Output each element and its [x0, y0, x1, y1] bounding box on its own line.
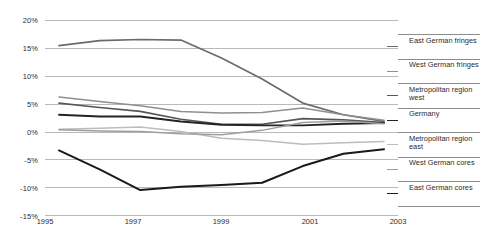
- legend-label: Metropolitan region west: [409, 86, 481, 103]
- legend-leader-line: [387, 46, 398, 47]
- x-tick-label: 1995: [25, 218, 65, 226]
- x-tick-label: 2001: [290, 218, 330, 226]
- series-line: [59, 40, 384, 122]
- legend-item-east-german-fringes: East German fringes: [398, 34, 482, 59]
- legend-item-west-german-fringes: West German fringes: [398, 59, 482, 84]
- legend-item-metropolitan-region-east: Metropolitan region east: [398, 132, 482, 157]
- chart-legend: East German fringes West German fringes …: [398, 34, 482, 208]
- legend-leader-line: [387, 120, 398, 121]
- plot-area: [45, 14, 398, 209]
- legend-label: West German cores: [409, 159, 481, 168]
- legend-label: East German fringes: [409, 37, 481, 46]
- legend-divider: [398, 34, 480, 35]
- legend-label: East German cores: [409, 184, 481, 193]
- legend-divider: [398, 83, 480, 84]
- legend-label: Metropolitan region east: [409, 135, 481, 152]
- legend-label: West German fringes: [409, 61, 481, 70]
- y-tick-label: 20%: [0, 17, 38, 25]
- gridline: [45, 215, 398, 216]
- y-tick-label: -5%: [0, 157, 38, 165]
- legend-divider: [398, 132, 480, 133]
- legend-item-east-german-cores: East German cores: [398, 181, 482, 206]
- series-line: [59, 149, 384, 190]
- legend-item-germany: Germany: [398, 108, 482, 133]
- series-line: [59, 127, 384, 144]
- x-tick-label: 2003: [378, 218, 418, 226]
- legend-bottom-rule-row: [398, 206, 482, 208]
- legend-leader-line: [387, 144, 398, 145]
- line-chart: 20% 15% 10% 5% 0% -5% -10% -15% 1995 199…: [0, 0, 482, 246]
- y-tick-label: 0%: [0, 129, 38, 137]
- legend-divider: [398, 206, 480, 207]
- y-tick-label: 5%: [0, 101, 38, 109]
- legend-item-west-german-cores: West German cores: [398, 157, 482, 182]
- y-tick-label: 10%: [0, 73, 38, 81]
- legend-leader-line: [387, 193, 398, 194]
- series-lines: [45, 14, 398, 209]
- y-tick-label: 15%: [0, 45, 38, 53]
- legend-leader-line: [387, 71, 398, 72]
- x-tick-label: 1997: [113, 218, 153, 226]
- y-tick-label: -10%: [0, 185, 38, 193]
- legend-label: Germany: [409, 110, 481, 119]
- legend-divider: [398, 181, 480, 182]
- legend-item-metropolitan-region-west: Metropolitan region west: [398, 83, 482, 108]
- legend-leader-line: [387, 169, 398, 170]
- x-tick-label: 1999: [201, 218, 241, 226]
- legend-leader-line: [387, 95, 398, 96]
